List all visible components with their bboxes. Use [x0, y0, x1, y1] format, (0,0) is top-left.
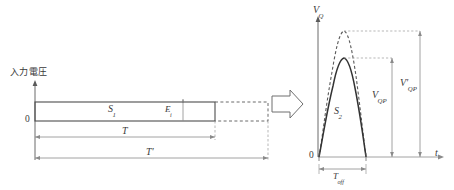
- left-pulse-solid-box: [35, 102, 215, 121]
- left-period-label-t: T: [122, 126, 128, 136]
- right-peak-label-vqp-sub: QP: [378, 97, 387, 104]
- right-peak-label-vqp-prime-sub: QP: [408, 85, 417, 92]
- right-peak-label-vqp: VQP: [372, 90, 387, 103]
- center-arrow-group: [272, 90, 303, 118]
- right-curve-solid-low: [319, 58, 366, 157]
- left-y-axis-arrowhead: [33, 80, 38, 86]
- right-y-axis-label-sub: Q: [319, 12, 324, 19]
- right-x-axis-label: t: [435, 148, 438, 158]
- right-x-axis-arrowhead: [438, 155, 444, 160]
- right-dimension-VQP-prime-arrow-bottom: [418, 152, 422, 157]
- figure-root: 入力電圧 0 S1 Ei T T′ VQ t 0 S2 VQP V′QP Tof…: [0, 0, 454, 190]
- right-dimension-VQP-prime-arrow-top: [418, 31, 422, 36]
- right-duration-label-toff: Toff: [333, 172, 344, 183]
- right-peak-label-vqp-prime: V′QP: [400, 78, 417, 91]
- left-pulse-dashed-extension: [215, 102, 268, 121]
- left-period-label-t-prime-mark: ′: [152, 146, 154, 157]
- right-curve-dashed-high: [319, 31, 366, 157]
- right-dimension-VQP-arrow-top: [390, 58, 394, 63]
- left-energy-label-ei: Ei: [165, 105, 172, 116]
- right-y-axis-label: VQ: [313, 5, 324, 18]
- left-energy-label-ei-sub: i: [170, 112, 172, 118]
- right-area-label-s2: S2: [334, 106, 342, 119]
- right-dimension-Toff-arrow-right: [361, 167, 366, 171]
- right-dimension-VQP-arrow-bottom: [390, 152, 394, 157]
- right-arrow-icon: [272, 90, 303, 118]
- left-area-label-s1: S1: [108, 104, 116, 117]
- left-origin-label: 0: [25, 115, 30, 125]
- left-dimension-T-arrow-left: [35, 135, 40, 139]
- left-period-label-t-prime: T′: [146, 147, 154, 157]
- left-area-label-s1-sub: 1: [113, 111, 116, 118]
- right-duration-label-toff-sub: off: [338, 179, 344, 185]
- left-dimension-Tprime-arrow-left: [35, 156, 40, 160]
- right-origin-label: 0: [309, 151, 314, 161]
- left-dimension-Tprime-arrow-right: [263, 156, 268, 160]
- right-dimension-Toff-arrow-left: [319, 167, 324, 171]
- right-area-label-s2-sub: 2: [339, 113, 342, 120]
- left-y-axis-label: 入力電圧: [10, 68, 48, 77]
- left-dimension-T-arrow-right: [210, 135, 215, 139]
